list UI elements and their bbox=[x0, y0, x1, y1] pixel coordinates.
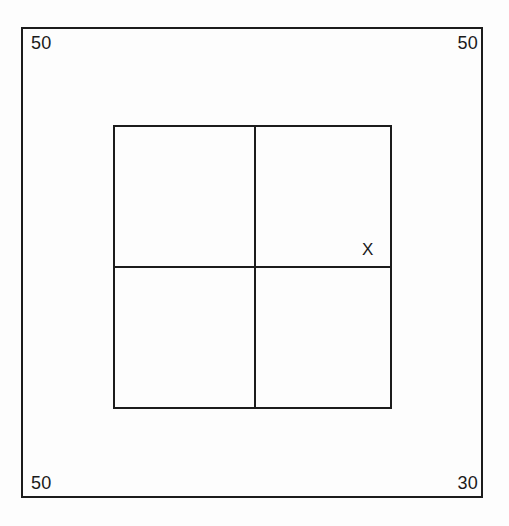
quadrant-divider-horizontal bbox=[115, 266, 390, 268]
marker-x-label: X bbox=[362, 241, 373, 258]
inner-square bbox=[113, 125, 392, 409]
drawing-canvas: 50 50 50 30 X bbox=[0, 0, 509, 526]
dimension-label-top-right: 50 bbox=[458, 34, 478, 52]
dimension-label-top-left: 50 bbox=[31, 34, 51, 52]
dimension-label-bottom-right: 30 bbox=[458, 474, 478, 492]
dimension-label-bottom-left: 50 bbox=[31, 474, 51, 492]
